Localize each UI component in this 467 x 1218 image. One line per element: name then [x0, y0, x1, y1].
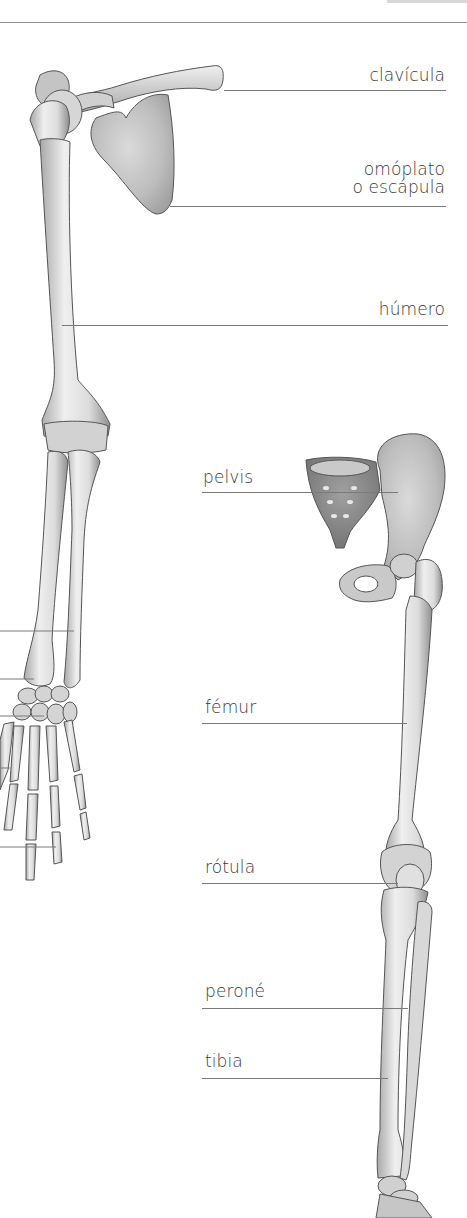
arm-skeleton [0, 66, 223, 880]
sacrum-top [310, 460, 370, 476]
label-femur: fémur [205, 698, 256, 716]
scapula-bone [91, 94, 174, 214]
leader-tibia [202, 1078, 388, 1079]
label-pelvis: pelvis [203, 468, 253, 486]
radius-bone [24, 451, 68, 686]
label-omoplato-line2: o escápula [352, 178, 445, 196]
leader-pelvis [202, 492, 398, 493]
label-tibia: tibia [205, 1052, 243, 1070]
foot-bones [376, 1176, 432, 1218]
leader-clavicula [224, 90, 446, 91]
carpal-bones [13, 686, 77, 724]
obturator-foramen [354, 576, 378, 592]
leader-omoplato [170, 206, 446, 207]
label-perone: peroné [205, 982, 265, 1000]
elbow-joint [44, 421, 108, 453]
label-humero: húmero [379, 300, 445, 318]
leader-rotula [202, 883, 398, 884]
hand-bones [0, 720, 90, 880]
label-omoplato-line1: omóplato [364, 160, 445, 178]
leader-perone [202, 1008, 408, 1009]
leader-humero [62, 325, 448, 326]
humerus-bone [40, 139, 110, 439]
label-rotula: rótula [205, 858, 255, 876]
femur-bone [386, 596, 432, 862]
leader-femur [202, 723, 407, 724]
leg-skeleton [306, 434, 445, 1218]
ulna-bone [64, 450, 100, 688]
label-clavicula: clavícula [370, 66, 445, 84]
femoral-head [390, 554, 418, 578]
